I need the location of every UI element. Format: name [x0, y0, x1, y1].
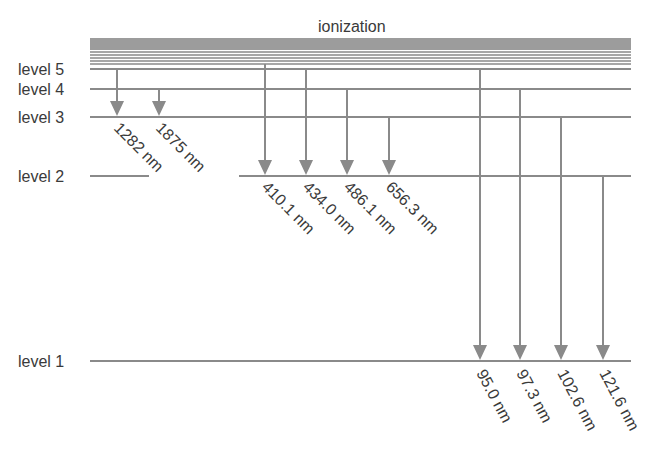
ionization-band-fill — [90, 38, 631, 50]
paschen-arrow — [152, 89, 166, 116]
level-2-label: level 2 — [18, 168, 64, 185]
lyman-arrow — [513, 89, 527, 360]
arrow-head-icon — [554, 345, 568, 360]
wavelength-labels: 1282 nm1875 nm410.1 nm434.0 nm486.1 nm65… — [111, 119, 643, 433]
arrow-head-icon — [258, 160, 272, 175]
arrow-head-icon — [596, 345, 610, 360]
wavelength-label: 95.0 nm — [473, 366, 515, 425]
balmer-arrow — [258, 64, 272, 175]
wavelength-label: 121.6 nm — [596, 366, 642, 433]
lyman-arrow — [554, 117, 568, 360]
ionization-label: ionization — [318, 18, 386, 35]
arrow-head-icon — [382, 160, 396, 175]
paschen-arrow — [110, 69, 124, 116]
level-5-label: level 5 — [18, 61, 64, 78]
arrow-head-icon — [152, 101, 166, 116]
arrow-head-icon — [299, 160, 313, 175]
lyman-arrow — [596, 176, 610, 360]
balmer-arrow — [340, 89, 354, 175]
balmer-arrow — [299, 69, 313, 175]
arrow-head-icon — [513, 345, 527, 360]
ionization-continuum-band — [90, 38, 631, 64]
level-1-label: level 1 — [18, 353, 64, 370]
level-4-label: level 4 — [18, 81, 64, 98]
hydrogen-energy-level-diagram: ionization level 5level 4level 3level 2l… — [0, 0, 655, 465]
arrow-head-icon — [340, 160, 354, 175]
transition-arrows — [110, 64, 610, 360]
level-3-label: level 3 — [18, 109, 64, 126]
balmer-arrow — [382, 117, 396, 175]
lyman-arrow — [473, 69, 487, 360]
wavelength-label: 102.6 nm — [554, 366, 600, 433]
arrow-head-icon — [473, 345, 487, 360]
arrow-head-icon — [110, 101, 124, 116]
energy-levels: level 5level 4level 3level 2level 1 — [18, 61, 631, 370]
wavelength-label: 97.3 nm — [513, 366, 555, 425]
